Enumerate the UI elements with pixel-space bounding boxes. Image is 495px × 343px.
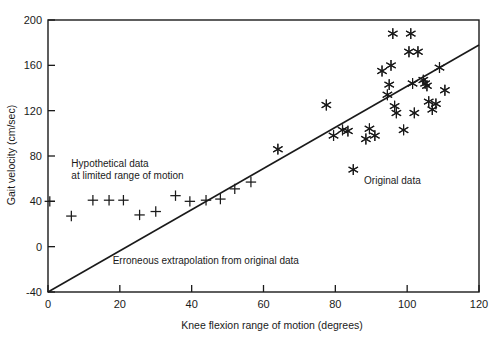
hypothetical-label-line2: at limited range of motion	[71, 170, 183, 181]
x-axis-title: Knee flexion range of motion (degrees)	[181, 319, 363, 331]
data-point-plus	[170, 190, 180, 200]
data-point-asterisk	[390, 101, 399, 112]
chart-annotations: Hypothetical dataat limited range of mot…	[71, 158, 421, 265]
x-tick-label: 120	[470, 298, 488, 310]
data-point-asterisk	[408, 78, 417, 89]
y-tick-label: 80	[30, 150, 42, 162]
y-tick-label: 0	[36, 241, 42, 253]
y-tick-label: 160	[24, 59, 42, 71]
data-point-asterisk	[386, 60, 395, 71]
y-axis-title: Gait velocity (cm/sec)	[5, 105, 17, 205]
x-tick-label: 100	[398, 298, 416, 310]
x-axis-ticks: 020406080100120	[45, 285, 488, 310]
extrapolation-label: Erroneous extrapolation from original da…	[113, 255, 300, 266]
data-point-plus	[230, 184, 240, 194]
data-point-asterisk	[365, 123, 374, 134]
y-axis-title-group: Gait velocity (cm/sec)	[5, 105, 17, 205]
data-point-asterisk	[273, 144, 282, 155]
x-tick-label: 60	[257, 298, 269, 310]
data-point-asterisk	[377, 66, 386, 77]
data-point-asterisk	[322, 100, 331, 111]
data-point-asterisk	[399, 125, 408, 136]
data-point-asterisk	[388, 28, 397, 39]
data-point-asterisk	[361, 134, 370, 145]
y-tick-label: 120	[24, 105, 42, 117]
data-point-plus	[151, 206, 161, 216]
y-tick-label: 40	[30, 195, 42, 207]
original-label: Original data	[364, 175, 421, 186]
axes-frame	[48, 20, 479, 292]
y-axis-ticks: -4004080120160200	[24, 14, 55, 298]
data-point-asterisk	[406, 28, 415, 39]
data-point-plus	[104, 195, 114, 205]
hypothetical-data-markers	[45, 177, 257, 221]
data-point-asterisk	[385, 79, 394, 90]
y-tick-label: 200	[24, 14, 42, 26]
x-tick-label: 80	[329, 298, 341, 310]
x-tick-label: 40	[186, 298, 198, 310]
data-point-asterisk	[435, 62, 444, 73]
data-point-asterisk	[329, 130, 338, 141]
data-point-plus	[88, 195, 98, 205]
data-point-plus	[118, 195, 128, 205]
data-point-plus	[66, 211, 76, 221]
data-point-asterisk	[370, 130, 379, 141]
data-point-asterisk	[413, 46, 422, 57]
data-point-asterisk	[349, 164, 358, 175]
data-point-plus	[134, 210, 144, 220]
data-point-plus	[45, 196, 55, 206]
data-point-asterisk	[392, 108, 401, 119]
data-point-asterisk	[404, 46, 413, 57]
plot-frame	[48, 20, 479, 292]
scatter-plot: Gait velocity (cm/sec) -4004080120160200…	[0, 0, 495, 343]
y-tick-label: -40	[26, 286, 42, 298]
figure-container: Gait velocity (cm/sec) -4004080120160200…	[0, 0, 495, 343]
x-tick-label: 20	[114, 298, 126, 310]
original-data-markers	[273, 28, 449, 175]
data-point-plus	[185, 196, 195, 206]
x-tick-label: 0	[45, 298, 51, 310]
data-point-asterisk	[410, 108, 419, 119]
data-point-asterisk	[440, 85, 449, 96]
hypothetical-label-line1: Hypothetical data	[71, 158, 149, 169]
